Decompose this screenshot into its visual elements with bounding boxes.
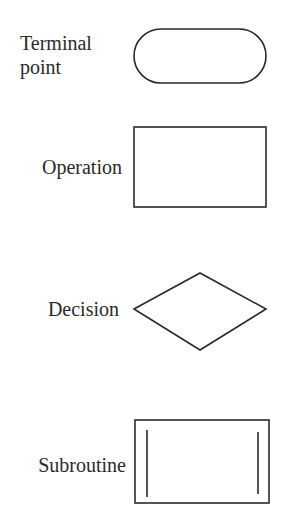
decision-shape: [134, 273, 266, 350]
operation-shape: [134, 127, 266, 207]
flowchart-symbols: [0, 0, 295, 524]
terminal-point-shape: [134, 29, 266, 83]
subroutine-shape: [135, 420, 269, 503]
